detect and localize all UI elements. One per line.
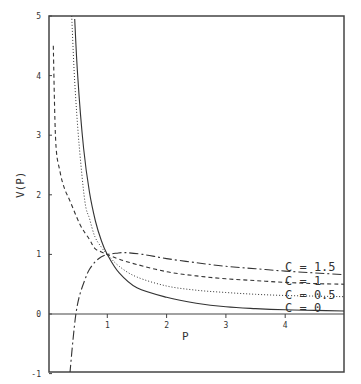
x-tick-label: 2 — [164, 321, 169, 330]
y-tick-label: 3 — [36, 131, 41, 140]
chart: -1012345 1234 P V(P) C = 1.5 C = 1 C = 0… — [0, 0, 361, 384]
y-tick-label: 0 — [36, 310, 41, 319]
x-axis: 1234 — [105, 314, 288, 330]
y-tick-label: -1 — [31, 370, 41, 379]
y-tick-label: 4 — [36, 72, 41, 81]
label-c-0-5: C = 0.5 — [285, 288, 336, 302]
x-tick-label: 3 — [223, 321, 228, 330]
curve-c-0-5 — [72, 16, 345, 297]
x-tick-label: 4 — [283, 321, 288, 330]
label-c-1-5: C = 1.5 — [285, 260, 336, 274]
x-tick-label: 1 — [105, 321, 110, 330]
y-tick-label: 1 — [36, 250, 41, 259]
y-tick-label: 5 — [36, 12, 41, 21]
label-c-1: C = 1 — [285, 274, 321, 288]
plot-frame — [49, 16, 344, 372]
curves — [53, 16, 344, 374]
y-tick-label: 2 — [36, 191, 41, 200]
x-axis-label: P — [182, 330, 189, 343]
curve-c-1 — [53, 46, 344, 284]
y-axis-label: V(P) — [14, 172, 27, 199]
label-c-0: C = 0 — [285, 301, 321, 315]
